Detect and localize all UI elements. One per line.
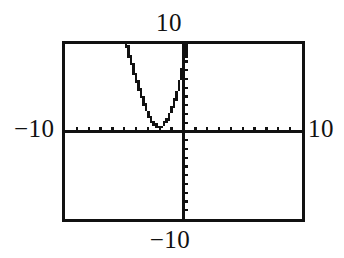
curve-pixel <box>183 60 186 63</box>
curve-pixel <box>142 101 145 104</box>
y-min-label: −10 <box>0 227 344 252</box>
curve-pixel <box>170 111 173 114</box>
parabola-curve <box>125 44 188 128</box>
curve-pixel <box>180 70 183 73</box>
curve-pixel <box>135 78 138 81</box>
curve-pixel <box>163 123 166 126</box>
curve-pixel <box>168 116 171 119</box>
curve-pixel <box>132 65 135 68</box>
curve-pixel <box>170 108 173 111</box>
curve-pixel <box>130 63 133 66</box>
curve-pixel <box>150 118 153 121</box>
curve-pixel <box>168 118 171 121</box>
x-max-label: 10 <box>308 116 334 141</box>
curve-pixel <box>180 78 183 81</box>
curve-pixel <box>127 53 130 56</box>
curve-pixel <box>165 121 168 124</box>
curve-pixel <box>145 103 148 106</box>
curve-pixel <box>173 98 176 101</box>
curve-pixel <box>183 58 186 61</box>
graphing-calculator-screenshot: 10 −10 10 −10 <box>0 0 344 258</box>
curve-pixel <box>127 48 130 51</box>
curve-pixel <box>147 111 150 114</box>
curve-pixel <box>135 80 138 83</box>
curve-pixel <box>175 96 178 99</box>
curve-pixel <box>185 45 188 48</box>
curve-pixel <box>178 80 181 83</box>
curve-pixel <box>135 73 138 76</box>
curve-pixel <box>175 91 178 94</box>
curve-pixel <box>127 50 130 53</box>
curve-pixel <box>155 126 158 129</box>
curve-pixel <box>175 93 178 96</box>
curve-pixel <box>127 45 130 48</box>
curve-pixel <box>142 96 145 99</box>
curve-pixel <box>185 55 188 58</box>
curve-pixel <box>168 113 171 116</box>
curve-pixel <box>183 63 186 66</box>
curve-pixel <box>183 55 186 58</box>
curve-pixel <box>137 83 140 86</box>
curve-pixel <box>160 126 163 129</box>
curve-pixel <box>173 101 176 104</box>
curve-pixel <box>150 116 153 119</box>
curve-pixel <box>170 106 173 109</box>
curve-pixel <box>147 116 150 119</box>
curve-pixel <box>130 58 133 61</box>
curve-pixel <box>178 83 181 86</box>
curve-pixel <box>178 88 181 91</box>
curve-pixel <box>132 68 135 71</box>
curve-pixel <box>140 93 143 96</box>
curve-pixel <box>173 106 176 109</box>
curve-pixel <box>132 63 135 66</box>
curve-pixel <box>137 80 140 83</box>
curve-pixel <box>127 55 130 58</box>
curve-pixel <box>145 108 148 111</box>
curve-pixel <box>150 121 153 124</box>
curve-pixel <box>175 98 178 101</box>
curve-pixel <box>132 70 135 73</box>
curve-pixel <box>130 55 133 58</box>
graph-viewport <box>62 41 305 222</box>
curve-pixel <box>165 118 168 121</box>
curve-pixel <box>137 88 140 91</box>
curve-pixel <box>180 75 183 78</box>
curve-pixel <box>145 106 148 109</box>
curve-pixel <box>155 123 158 126</box>
curve-pixel <box>140 91 143 94</box>
x-min-label: −10 <box>14 116 55 141</box>
curve-pixel <box>173 103 176 106</box>
curve-pixel <box>152 123 155 126</box>
curve-pixel <box>180 68 183 71</box>
curve-pixel <box>142 98 145 101</box>
curve-pixel <box>147 113 150 116</box>
curve-pixel <box>137 85 140 88</box>
curve-pixel <box>163 121 166 124</box>
curve-pixel <box>140 96 143 99</box>
curve-pixel <box>125 45 128 48</box>
curve-pixel <box>130 60 133 63</box>
curve-pixel <box>142 103 145 106</box>
curve-pixel <box>152 121 155 124</box>
graph-plot <box>65 44 302 219</box>
curve-pixel <box>183 65 186 68</box>
curve-pixel <box>185 48 188 51</box>
curve-pixel <box>158 126 161 129</box>
curve-pixel <box>140 88 143 91</box>
curve-pixel <box>185 53 188 56</box>
curve-pixel <box>125 44 128 45</box>
curve-pixel <box>178 85 181 88</box>
curve-pixel <box>183 68 186 71</box>
curve-pixel <box>185 50 188 53</box>
curve-pixel <box>132 73 135 76</box>
curve-pixel <box>135 75 138 78</box>
curve-pixel <box>185 44 188 45</box>
y-max-label: 10 <box>0 10 344 35</box>
curve-pixel <box>180 73 183 76</box>
